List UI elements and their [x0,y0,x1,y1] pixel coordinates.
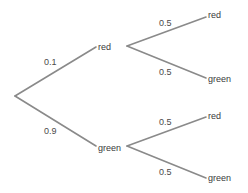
branch-first-red [15,47,96,96]
outcome-label-first-green: green [98,143,121,153]
prob-label-green-green: 0.5 [159,167,172,177]
outcome-label-green-red: red [208,111,221,121]
prob-label-red-red: 0.5 [159,18,172,28]
outcome-label-first-red: red [98,42,111,52]
outcome-label-red-green: green [208,74,231,84]
prob-label-green-red: 0.5 [159,117,172,127]
outcome-label-green-green: green [208,173,231,183]
prob-label-first-red: 0.1 [44,57,57,67]
branch-first-green [15,96,96,146]
prob-label-first-green: 0.9 [44,126,57,136]
outcome-label-red-red: red [208,10,221,20]
prob-label-red-green: 0.5 [159,67,172,77]
probability-tree-diagram: 0.1 0.9 red green 0.5 0.5 red green 0.5 … [0,0,248,193]
